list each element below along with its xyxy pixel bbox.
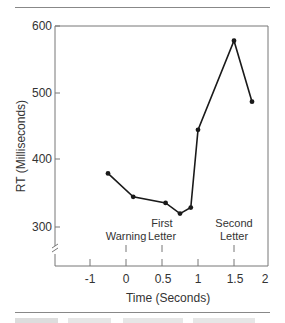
data-point (106, 171, 111, 176)
rt-line-chart: 600 500 400 300 -1 0 0.5 1 1.5 2 Time (S… (0, 0, 285, 323)
y-axis-ticks (55, 26, 60, 227)
x-tick-2: 2 (262, 272, 269, 286)
rt-line (108, 41, 252, 214)
y-tick-300: 300 (32, 220, 52, 234)
data-point (131, 194, 136, 199)
y-tick-500: 500 (32, 86, 52, 100)
y-tick-600: 600 (32, 19, 52, 33)
x-tick-0: 0 (123, 272, 130, 286)
data-point (250, 99, 255, 104)
y-tick-400: 400 (32, 152, 52, 166)
y-axis-title: RT (Milliseconds) (14, 100, 28, 192)
event-annotations: Warning First Letter Second Letter (106, 217, 253, 252)
annotation-first-line2: Letter (148, 230, 176, 242)
annotation-warning: Warning (106, 230, 147, 242)
rt-series (106, 38, 255, 216)
y-axis-tick-labels: 600 500 400 300 (32, 19, 52, 234)
x-tick-1-5: 1.5 (227, 272, 244, 286)
bottom-rule (15, 312, 270, 313)
data-point (232, 38, 237, 43)
x-tick-0-5: 0.5 (155, 272, 172, 286)
annotation-second-line1: Second (215, 217, 252, 229)
x-tick-1: 1 (195, 272, 202, 286)
annotation-second-line2: Letter (220, 230, 248, 242)
x-axis-tick-labels: -1 0 0.5 1 1.5 2 (85, 272, 269, 286)
data-point (163, 200, 168, 205)
x-tick-neg1: -1 (85, 272, 96, 286)
data-point (188, 205, 193, 210)
figure-caption-cropped (15, 318, 255, 323)
data-point (178, 211, 183, 216)
x-axis-title: Time (Seconds) (126, 291, 210, 305)
data-point (196, 127, 201, 132)
annotation-first-line1: First (151, 217, 172, 229)
x-axis-ticks (90, 259, 234, 266)
